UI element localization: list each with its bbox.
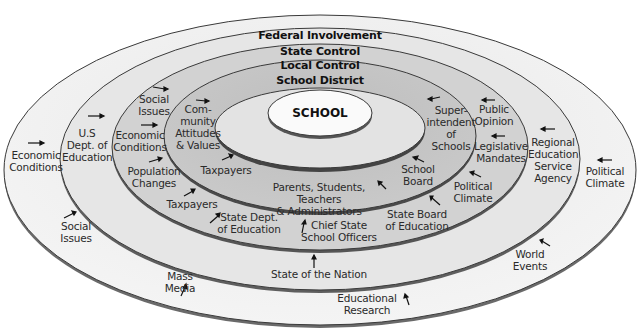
label-district-taxpayers: Taxpayers xyxy=(196,164,256,176)
ring-title-state-control: State Control xyxy=(240,45,400,58)
ring-title-local-control: Local Control xyxy=(240,59,400,72)
label-state-board-education: State Board of Education xyxy=(378,208,456,232)
label-state-regional-agency: Regional Education Service Agency xyxy=(528,136,578,184)
label-local-public-opinion: Public Opinion xyxy=(474,103,514,127)
label-federal-economic-conditions: Economic Conditions xyxy=(8,149,64,173)
label-district-community-attitudes: Com- munity Attitudes & Values xyxy=(174,103,222,151)
label-local-taxpayers: Taxpayers xyxy=(162,198,222,210)
label-local-political-climate: Political Climate xyxy=(450,180,496,204)
label-district-parents-students: Parents, Students, Teachers & Administra… xyxy=(254,181,384,217)
ring-title-school-district: School District xyxy=(240,74,400,87)
label-district-school-board: School Board xyxy=(398,163,438,187)
center-school-label: SCHOOL xyxy=(270,106,370,120)
label-federal-mass-media: Mass Media xyxy=(162,270,198,294)
label-local-legislative-mandates: Legislative Mandates xyxy=(474,140,528,164)
label-federal-political-climate: Political Climate xyxy=(580,165,630,189)
label-federal-state-of-the-nation: State of the Nation xyxy=(264,268,374,280)
label-state-us-dept-education: U.S Dept. of Education xyxy=(62,127,112,163)
label-federal-educational-research: Educational Research xyxy=(332,292,402,316)
label-local-social-issues: Social Issues xyxy=(134,93,174,117)
ring-title-federal-involvement: Federal Involvement xyxy=(240,29,400,42)
label-local-economic-conditions: Economic Conditions xyxy=(112,129,168,153)
label-federal-social-issues: Social Issues xyxy=(56,220,96,244)
label-federal-world-events: World Events xyxy=(508,248,552,272)
label-district-superintendent: Super- intendent of Schools xyxy=(426,104,476,152)
label-local-population-changes: Population Changes xyxy=(124,165,184,189)
label-state-chief-officers: Chief State School Officers xyxy=(299,219,379,243)
